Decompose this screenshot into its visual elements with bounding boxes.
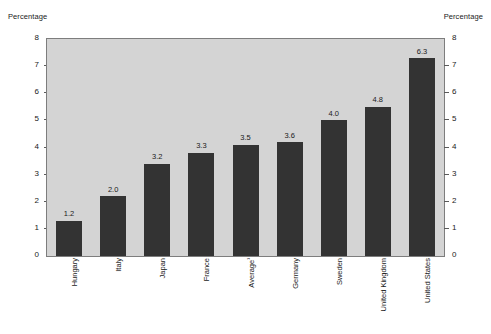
x-axis-category-labels: HungaryItalyJapanFranceAverage¹GermanySw…: [46, 258, 443, 334]
x-axis-label: Italy: [115, 258, 123, 272]
y-tick-label: 2: [452, 197, 469, 205]
y-tick-label: 0: [22, 251, 39, 259]
bar-value-label: 3.6: [284, 132, 294, 140]
bar-slot[interactable]: 2.0: [100, 39, 126, 256]
x-axis-label: Hungary: [71, 258, 79, 286]
y-tick-mark: [444, 147, 449, 148]
y-tick-label: 6: [22, 88, 39, 96]
bar-value-label: 4.0: [329, 110, 339, 118]
bar[interactable]: [188, 153, 214, 256]
bar-slot[interactable]: 1.2: [56, 39, 82, 256]
y-tick-label: 0: [452, 251, 469, 259]
y-tick-label: 1: [452, 224, 469, 232]
y-tick-mark: [444, 65, 449, 66]
bar[interactable]: [365, 107, 391, 256]
y-tick-mark: [444, 174, 449, 175]
bar-value-label: 1.2: [64, 210, 74, 218]
y-tick-label: 2: [22, 197, 39, 205]
y-axis-left: 012345678: [22, 38, 46, 255]
y-tick-label: 6: [452, 88, 469, 96]
bar-slot[interactable]: 3.2: [144, 39, 170, 256]
x-axis-label: France: [203, 258, 211, 281]
x-axis-label: Germany: [292, 258, 300, 289]
y-tick-label: 8: [22, 34, 39, 42]
bar[interactable]: [277, 142, 303, 256]
x-axis-label: Average¹: [248, 258, 256, 288]
y-tick-label: 5: [22, 115, 39, 123]
bar-value-label: 4.8: [373, 96, 383, 104]
y-tick-label: 1: [22, 224, 39, 232]
y-tick-label: 7: [452, 61, 469, 69]
x-axis-label: United Kingdom: [380, 258, 388, 311]
bar-value-label: 3.5: [240, 134, 250, 142]
y-tick-label: 3: [22, 170, 39, 178]
x-axis-label: Sweden: [336, 258, 344, 285]
y-tick-mark: [444, 92, 449, 93]
bar[interactable]: [409, 58, 435, 256]
bar[interactable]: [100, 196, 126, 256]
bar-value-label: 2.0: [108, 186, 118, 194]
bar-slot[interactable]: 6.3: [409, 39, 435, 256]
bar-slot[interactable]: 3.5: [233, 39, 259, 256]
bar[interactable]: [321, 120, 347, 256]
y-tick-label: 4: [22, 143, 39, 151]
bar[interactable]: [144, 164, 170, 256]
bar[interactable]: [56, 221, 82, 256]
bar[interactable]: [233, 145, 259, 256]
x-axis-label: United States: [424, 258, 432, 303]
bar-slot[interactable]: 3.3: [188, 39, 214, 256]
bar-value-label: 3.3: [196, 142, 206, 150]
bar-slot[interactable]: 3.6: [277, 39, 303, 256]
bar-chart: Percentage Percentage 012345678 1.22.03.…: [0, 0, 491, 334]
x-axis-label: Japan: [159, 258, 167, 278]
bar-slot[interactable]: 4.8: [365, 39, 391, 256]
y-axis-right: 012345678: [443, 38, 467, 255]
y-tick-label: 3: [452, 170, 469, 178]
y-tick-label: 4: [452, 143, 469, 151]
left-axis-caption: Percentage: [8, 12, 47, 21]
y-tick-label: 5: [452, 115, 469, 123]
y-tick-mark: [444, 119, 449, 120]
y-tick-label: 8: [452, 34, 469, 42]
plot-area: 1.22.03.23.33.53.64.04.86.3: [46, 38, 445, 257]
y-tick-label: 7: [22, 61, 39, 69]
y-tick-mark: [444, 201, 449, 202]
bar-value-label: 3.2: [152, 153, 162, 161]
bar-value-label: 6.3: [417, 48, 427, 56]
y-tick-mark: [444, 228, 449, 229]
right-axis-caption: Percentage: [444, 12, 483, 21]
bar-slot[interactable]: 4.0: [321, 39, 347, 256]
